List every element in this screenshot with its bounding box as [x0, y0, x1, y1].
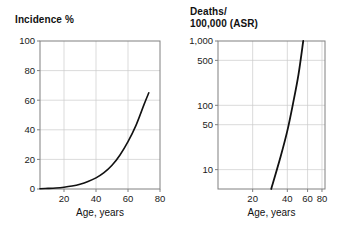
- svg-text:60: 60: [302, 193, 313, 204]
- svg-text:40: 40: [91, 193, 102, 204]
- x-axis-title-deaths: Age, years: [248, 207, 296, 218]
- gridlines-deaths: [218, 41, 325, 189]
- gridlines-incidence: [40, 41, 160, 189]
- svg-text:1,000: 1,000: [189, 35, 213, 46]
- svg-text:40: 40: [282, 193, 293, 204]
- svg-text:80: 80: [317, 193, 328, 204]
- x-axis-title-incidence: Age, years: [76, 207, 124, 218]
- plot-frame-deaths: [218, 41, 325, 189]
- plot-area-incidence: 02040608010020406080 Age, years: [0, 0, 172, 226]
- svg-text:20: 20: [59, 193, 70, 204]
- svg-text:500: 500: [197, 55, 213, 66]
- svg-text:20: 20: [24, 154, 35, 165]
- chart-panel-incidence: Incidence % 02040608010020406080 Age, ye…: [0, 0, 172, 226]
- svg-text:60: 60: [123, 193, 134, 204]
- svg-text:50: 50: [202, 119, 213, 130]
- plot-area-deaths: 10501005001,00020406080 Age, years: [172, 0, 344, 226]
- svg-text:40: 40: [24, 124, 35, 135]
- svg-text:80: 80: [155, 193, 166, 204]
- svg-text:80: 80: [24, 65, 35, 76]
- figure-container: Incidence % 02040608010020406080 Age, ye…: [0, 0, 344, 226]
- svg-text:60: 60: [24, 95, 35, 106]
- svg-text:100: 100: [197, 100, 213, 111]
- data-curve-incidence: [40, 93, 149, 189]
- svg-text:20: 20: [247, 193, 258, 204]
- svg-text:100: 100: [19, 35, 35, 46]
- svg-text:0: 0: [30, 183, 35, 194]
- chart-panel-deaths: Deaths/ 100,000 (ASR) 10501005001,000204…: [172, 0, 344, 226]
- plot-frame-incidence: [40, 41, 160, 189]
- svg-text:10: 10: [202, 164, 213, 175]
- tick-labels-incidence: 02040608010020406080: [19, 35, 165, 204]
